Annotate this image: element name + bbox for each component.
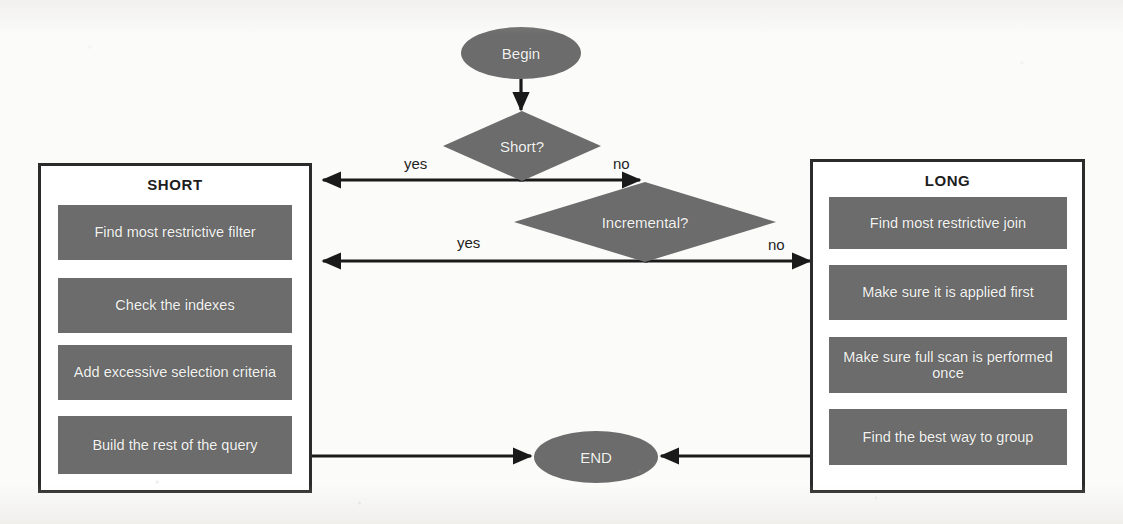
- branch-label-short-no: no: [613, 155, 630, 172]
- end-label: END: [580, 449, 612, 466]
- branch-label-incremental-yes: yes: [457, 234, 480, 251]
- end-terminator: END: [534, 431, 658, 483]
- decision-short: Short?: [443, 111, 601, 181]
- step-long-0: Find most restrictive join: [829, 197, 1067, 249]
- start-terminator: Begin: [461, 27, 581, 79]
- step-short-0: Find most restrictive filter: [58, 205, 292, 260]
- decision-incremental-label: Incremental?: [602, 214, 689, 231]
- step-short-3: Build the rest of the query: [58, 416, 292, 474]
- decision-incremental: Incremental?: [514, 182, 776, 262]
- panel-long-title: LONG: [813, 172, 1082, 189]
- start-label: Begin: [502, 45, 540, 62]
- step-long-2: Make sure full scan is performed once: [829, 337, 1067, 393]
- step-long-3: Find the best way to group: [829, 409, 1067, 465]
- flowchart-canvas: Begin Short? yes no Incremental? yes no …: [0, 0, 1123, 524]
- panel-short-title: SHORT: [41, 176, 309, 193]
- branch-label-incremental-no: no: [768, 236, 785, 253]
- branch-label-short-yes: yes: [404, 155, 427, 172]
- step-short-2: Add excessive selection criteria: [58, 345, 292, 400]
- decision-short-label: Short?: [500, 138, 544, 155]
- step-long-1: Make sure it is applied first: [829, 265, 1067, 320]
- step-short-1: Check the indexes: [58, 278, 292, 333]
